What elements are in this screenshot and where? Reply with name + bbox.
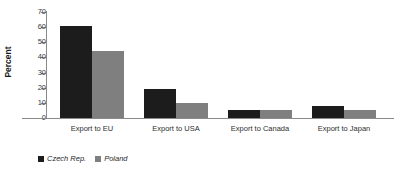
legend-label: Czech Rep. xyxy=(47,154,86,163)
bar xyxy=(176,103,208,118)
bar xyxy=(344,110,376,118)
bar xyxy=(60,26,92,118)
bar-group xyxy=(144,12,208,118)
y-axis-tick-label-wrap: 20 xyxy=(0,84,46,92)
bar xyxy=(144,89,176,118)
legend-item: Czech Rep. xyxy=(38,154,86,163)
bar-group xyxy=(60,12,124,118)
bar-chart: Percent 706050403020100 Export to EUExpo… xyxy=(0,0,400,172)
y-axis-tick-label: 20 xyxy=(10,84,46,92)
y-axis-tick-label-wrap: 70 xyxy=(0,8,46,16)
bar xyxy=(312,106,344,118)
y-axis-tick-label: 70 xyxy=(10,8,46,16)
legend-swatch-icon xyxy=(38,156,44,162)
legend-swatch-icon xyxy=(95,156,101,162)
x-axis-line xyxy=(22,118,394,119)
chart-legend: Czech Rep.Poland xyxy=(38,154,128,163)
bar-group xyxy=(228,12,292,118)
x-axis-label: Export to Japan xyxy=(294,124,394,133)
bar xyxy=(228,110,260,118)
y-axis-tick-label: 40 xyxy=(10,53,46,61)
y-axis-tick-label: 50 xyxy=(10,38,46,46)
y-axis-tick-label: 60 xyxy=(10,23,46,31)
y-axis-tick-label-wrap: 50 xyxy=(0,38,46,46)
bar xyxy=(92,51,124,118)
y-axis-tick-label-wrap: 40 xyxy=(0,53,46,61)
y-axis-tick-label-wrap: 10 xyxy=(0,99,46,107)
y-axis-tick-label-wrap: 60 xyxy=(0,23,46,31)
legend-item: Poland xyxy=(95,154,127,163)
legend-label: Poland xyxy=(104,154,127,163)
bar-group xyxy=(312,12,376,118)
bar xyxy=(260,110,292,118)
plot-area xyxy=(46,12,392,118)
y-axis-tick-label: 10 xyxy=(10,99,46,107)
y-axis-tick-label-wrap: 30 xyxy=(0,69,46,77)
y-axis-tick-label: 30 xyxy=(10,69,46,77)
